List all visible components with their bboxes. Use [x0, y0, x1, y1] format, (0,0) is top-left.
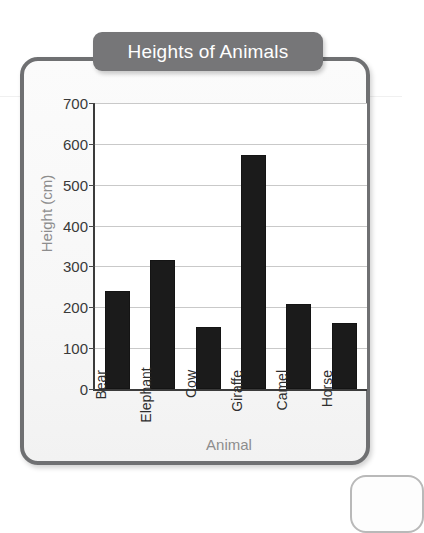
y-tick-label: 400	[50, 217, 88, 234]
y-tick-label: 300	[50, 258, 88, 275]
bars	[95, 103, 367, 389]
bar	[241, 155, 266, 389]
x-tick-label-text: Elephant	[136, 367, 154, 422]
bar	[196, 327, 221, 389]
bar	[332, 323, 357, 389]
x-tick-label-text: Cow	[181, 370, 199, 420]
chart-title-banner: Heights of Animals	[93, 32, 323, 71]
x-tick-label-text: Bear	[91, 370, 109, 420]
y-tick-label: 700	[50, 95, 88, 112]
x-axis-title: Animal	[93, 436, 365, 453]
bar	[286, 304, 311, 389]
page-corner-artifact	[350, 475, 424, 533]
x-tick-label-text: Horse	[317, 370, 335, 420]
plot-area	[93, 103, 367, 391]
x-tick-label-text: Camel	[272, 370, 290, 420]
y-axis-tick-labels: 0100200300400500600700	[50, 57, 88, 465]
y-tick-label: 200	[50, 299, 88, 316]
bar	[150, 260, 175, 389]
chart-plot-wrapper: Height (cm) 0100200300400500600700 BearE…	[20, 57, 370, 465]
y-tick-label: 100	[50, 340, 88, 357]
y-tick-label: 600	[50, 135, 88, 152]
x-tick-label-text: Giraffe	[227, 370, 245, 420]
chart-title: Heights of Animals	[128, 41, 289, 63]
y-tick-label: 0	[50, 381, 88, 398]
y-tick-label: 500	[50, 176, 88, 193]
bar-slot	[231, 155, 276, 389]
